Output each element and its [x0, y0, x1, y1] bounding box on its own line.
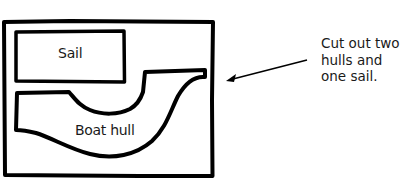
instruction-note: Cut out two hulls and one sail.: [321, 35, 400, 85]
sail-label: Sail: [58, 45, 82, 61]
diagram-drawing: [0, 0, 406, 191]
hull-label: Boat hull: [75, 122, 135, 138]
instruction-line: hulls and: [321, 52, 400, 69]
pointer-arrow-icon: [226, 60, 307, 82]
cutout-diagram: Sail Boat hull Cut out two hulls and one…: [0, 0, 406, 191]
paper-sheet-outline: [4, 21, 213, 176]
instruction-line: Cut out two: [321, 35, 400, 52]
instruction-line: one sail.: [321, 68, 400, 85]
